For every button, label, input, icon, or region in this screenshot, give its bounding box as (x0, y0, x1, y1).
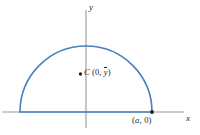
centroid-y-value: y (104, 68, 108, 77)
centroid-label: C(0,y) (84, 68, 111, 77)
centroid-point (79, 72, 82, 75)
semicircle-centroid-figure: y x C(0,y) (a, 0) (0, 0, 200, 135)
vertex-point-a (150, 110, 154, 114)
centroid-x-value: 0, (95, 67, 102, 77)
centroid-close-paren: ) (108, 67, 111, 77)
centroid-symbol: C (84, 67, 90, 77)
y-axis-label: y (89, 3, 93, 12)
vertex-a-label: (a, 0) (132, 116, 152, 125)
vertex-rest: , 0) (139, 115, 151, 125)
x-axis-label: x (186, 114, 190, 123)
